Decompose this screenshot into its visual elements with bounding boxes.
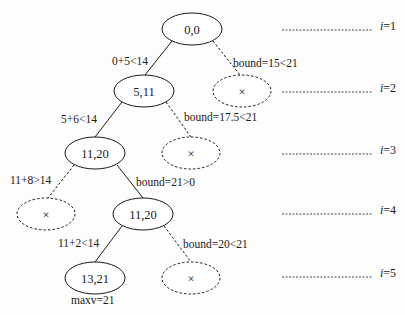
pruned-node: ×: [162, 262, 220, 294]
tree-node: 0,0: [162, 13, 222, 45]
tree-node: 11,20: [113, 198, 173, 230]
node-label: 11,20: [129, 208, 157, 222]
svg-text:i=2: i=2: [380, 81, 396, 95]
svg-text:i=3: i=3: [380, 143, 396, 157]
node-label: 11,20: [81, 147, 109, 161]
node-label: 5,11: [133, 85, 154, 99]
level-value: =1: [383, 19, 396, 33]
pruned-x-icon: ×: [238, 85, 245, 99]
level-marker: i=2: [282, 81, 396, 95]
svg-text:i=4: i=4: [380, 203, 396, 217]
edge-label: 0+5<14: [112, 55, 148, 67]
tree-node: 11,20: [65, 137, 125, 169]
edge-label: bound=20<21: [183, 238, 248, 250]
svg-text:i=5: i=5: [380, 266, 396, 280]
edge-n0-n1: [145, 41, 172, 75]
level-marker: i=3: [282, 143, 396, 157]
edge-label: 11+2<14: [58, 237, 100, 249]
level-marker: i=5: [282, 266, 396, 280]
node-label: 13,21: [81, 272, 109, 286]
level-value: =3: [383, 143, 396, 157]
tree-node: 13,21: [65, 262, 125, 294]
result-label: maxv=21: [71, 294, 115, 306]
pruned-node: ×: [162, 137, 220, 169]
svg-text:i=1: i=1: [380, 19, 396, 33]
level-marker: i=4: [282, 203, 396, 217]
level-value: =2: [383, 81, 396, 95]
node-label: 0,0: [184, 23, 200, 37]
edge-label: 11+8>14: [10, 174, 52, 186]
edge-label: bound=15<21: [233, 57, 298, 69]
pruned-x-icon: ×: [42, 208, 49, 222]
edge-label: bound=17.5<21: [184, 111, 258, 123]
tree-svg: 0,0 5,11 × 11,20 × × 11,20 13,21: [0, 0, 405, 315]
pruned-node: ×: [213, 75, 271, 107]
edge-n3-n5: [48, 165, 74, 198]
pruned-x-icon: ×: [187, 272, 194, 286]
pruned-x-icon: ×: [187, 147, 194, 161]
edge-label: 5+6<14: [61, 113, 97, 125]
tree-node: 5,11: [114, 75, 174, 107]
branch-and-bound-tree-diagram: 0,0 5,11 × 11,20 × × 11,20 13,21: [0, 0, 405, 315]
level-marker: i=1: [282, 19, 396, 33]
level-value: =4: [383, 203, 396, 217]
level-value: =5: [383, 266, 396, 280]
edge-label: bound=21>0: [136, 176, 195, 188]
pruned-node: ×: [17, 198, 75, 230]
edge-n1-n3: [95, 102, 122, 137]
level-markers: i=1 i=2 i=3 i=4 i=5: [282, 19, 396, 280]
